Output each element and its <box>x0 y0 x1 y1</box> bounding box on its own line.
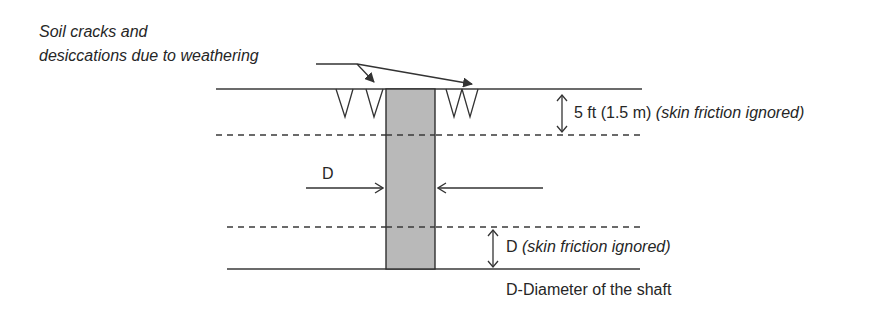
diameter-legend: D-Diameter of the shaft <box>506 282 671 298</box>
top-zone-dimension-arrow <box>557 95 567 132</box>
top-zone-dimension: 5 ft (1.5 m) <box>574 104 651 121</box>
shaft-diameter-label: D <box>322 166 334 182</box>
bottom-zone-dimension-arrow <box>488 230 498 267</box>
top-zone-dimension-label: 5 ft (1.5 m) (skin friction ignored) <box>574 105 804 121</box>
bottom-zone-dimension: D <box>506 238 518 255</box>
callout-leader <box>316 64 472 84</box>
bottom-zone-dimension-label: D (skin friction ignored) <box>506 239 671 255</box>
bottom-zone-note: (skin friction ignored) <box>522 238 671 255</box>
drilled-shaft <box>386 89 435 269</box>
top-zone-note: (skin friction ignored) <box>656 104 805 121</box>
callout-label-line1: Soil cracks and <box>39 24 148 40</box>
callout-label-line2: desiccations due to weathering <box>39 48 259 64</box>
